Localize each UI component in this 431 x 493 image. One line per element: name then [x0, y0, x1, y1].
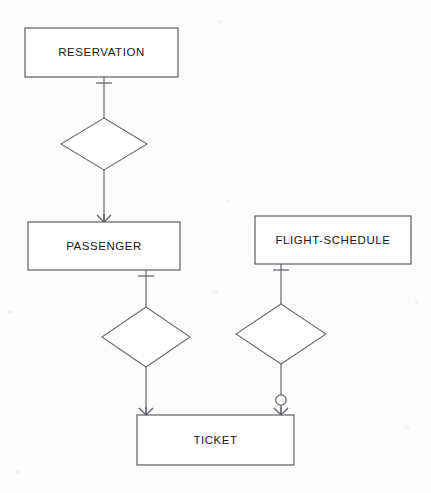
entity-label-passenger: PASSENGER	[66, 240, 142, 252]
cardinality-many-icon-ticket-left	[139, 407, 153, 415]
entity-group: RESERVATION PASSENGER FLIGHT-SCHEDULE TI…	[25, 28, 411, 465]
relationship-diamond-reservation-passenger[interactable]	[61, 118, 147, 170]
er-diagram-svg: RESERVATION PASSENGER FLIGHT-SCHEDULE TI…	[0, 0, 431, 493]
relationship-diamond-flight-schedule-ticket[interactable]	[236, 304, 326, 364]
entity-label-reservation: RESERVATION	[58, 46, 145, 58]
entity-label-ticket: TICKET	[193, 434, 237, 446]
entity-label-flight-schedule: FLIGHT-SCHEDULE	[276, 234, 391, 246]
cardinality-many-icon-ticket-right	[274, 407, 288, 415]
relationship-diamond-passenger-ticket[interactable]	[102, 307, 190, 367]
er-diagram-canvas: RESERVATION PASSENGER FLIGHT-SCHEDULE TI…	[0, 0, 431, 493]
cardinality-zero-icon-ticket-right	[276, 395, 286, 405]
cardinality-many-icon-passenger	[97, 214, 111, 222]
